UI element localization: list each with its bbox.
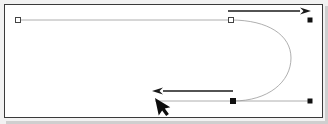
- u-turn-bezier-path[interactable]: [18, 20, 310, 101]
- mouse-pointer-cursor-glyph: [155, 95, 172, 117]
- anchor-point-top-end[interactable]: [308, 18, 312, 22]
- direction-arrow-right: [228, 8, 311, 15]
- direction-arrow-right-head: [300, 8, 311, 15]
- vector-graphics-layer: [0, 0, 328, 124]
- mouse-pointer-cursor: [155, 95, 172, 117]
- anchor-point-curve-top[interactable]: [229, 18, 234, 23]
- anchor-point-start[interactable]: [16, 18, 21, 23]
- direction-arrow-left-head: [152, 88, 163, 95]
- anchor-point-curve-bottom[interactable]: [231, 99, 236, 104]
- vector-editor-window: [0, 0, 328, 124]
- direction-arrow-left: [152, 88, 233, 95]
- anchor-point-bottom-end[interactable]: [308, 99, 312, 103]
